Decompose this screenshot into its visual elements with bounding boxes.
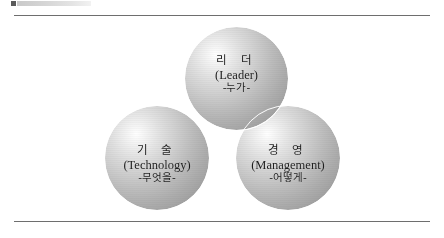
- venn-diagram: 리 더 (Leader) -누가- 기 술 (Technology) -무엇을-…: [0, 16, 444, 220]
- sphere-texture-technology: [105, 106, 209, 210]
- divider-bottom: [14, 221, 430, 222]
- sphere-texture-leader: [185, 27, 288, 130]
- circle-leader: [184, 26, 289, 131]
- header-redaction-bar: [17, 1, 91, 6]
- page-root: 리 더 (Leader) -누가- 기 술 (Technology) -무엇을-…: [0, 0, 444, 238]
- redacted-header-artifact: [11, 1, 91, 6]
- header-swatch-icon: [11, 1, 16, 6]
- circle-technology: [104, 105, 210, 211]
